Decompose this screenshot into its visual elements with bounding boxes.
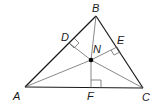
label-n: N [93, 43, 101, 55]
side-ab [25, 16, 96, 87]
triangle-diagram: B D E N A F C [0, 0, 156, 104]
label-e: E [117, 34, 125, 46]
label-f: F [87, 90, 95, 102]
side-ac [25, 87, 143, 88]
segment-nd [69, 43, 91, 60]
right-angle-f [91, 80, 101, 88]
label-d: D [61, 31, 69, 43]
label-a: A [12, 90, 20, 102]
label-c: C [142, 91, 150, 103]
segment-cn [91, 60, 143, 88]
label-b: B [92, 2, 99, 14]
point-n [89, 58, 94, 63]
segment-an [25, 60, 91, 87]
